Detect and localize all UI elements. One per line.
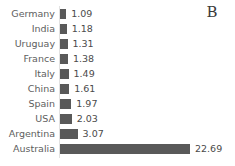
bar bbox=[60, 144, 190, 154]
value-label: 1.09 bbox=[71, 6, 92, 21]
bar bbox=[60, 9, 66, 19]
bar-track: 2.03 bbox=[60, 111, 235, 126]
bar-row: Argentina3.07 bbox=[0, 126, 235, 141]
bar bbox=[60, 54, 68, 64]
bar-track: 1.31 bbox=[60, 36, 235, 51]
value-label: 1.31 bbox=[73, 36, 94, 51]
value-label: 3.07 bbox=[83, 126, 104, 141]
bar-track: 1.38 bbox=[60, 51, 235, 66]
bar bbox=[60, 69, 69, 79]
bar-row: USA2.03 bbox=[0, 111, 235, 126]
category-label: Italy bbox=[0, 66, 55, 81]
bar-row: Spain1.97 bbox=[0, 96, 235, 111]
value-label: 22.69 bbox=[195, 141, 222, 156]
value-label: 1.97 bbox=[76, 96, 97, 111]
chart-plot-area: Germany1.09India1.18Uruguay1.31France1.3… bbox=[0, 6, 235, 162]
bar bbox=[60, 99, 71, 109]
bar-chart-panel: B Germany1.09India1.18Uruguay1.31France1… bbox=[0, 0, 235, 166]
bar-row: Germany1.09 bbox=[0, 6, 235, 21]
bar bbox=[60, 114, 72, 124]
bar-track: 1.09 bbox=[60, 6, 235, 21]
bar-track: 22.69 bbox=[60, 141, 235, 156]
value-label: 1.61 bbox=[74, 81, 95, 96]
category-label: France bbox=[0, 51, 55, 66]
bar bbox=[60, 24, 67, 34]
bar-row: India1.18 bbox=[0, 21, 235, 36]
category-label: India bbox=[0, 21, 55, 36]
bar-track: 1.61 bbox=[60, 81, 235, 96]
value-label: 1.38 bbox=[73, 51, 94, 66]
bar bbox=[60, 84, 69, 94]
bar-track: 1.18 bbox=[60, 21, 235, 36]
category-label: USA bbox=[0, 111, 55, 126]
category-label: Australia bbox=[0, 141, 55, 156]
bar bbox=[60, 39, 68, 49]
bar-track: 1.97 bbox=[60, 96, 235, 111]
bar-row: France1.38 bbox=[0, 51, 235, 66]
bar-row: Uruguay1.31 bbox=[0, 36, 235, 51]
category-label: China bbox=[0, 81, 55, 96]
bar-row: Australia22.69 bbox=[0, 141, 235, 156]
category-label: Uruguay bbox=[0, 36, 55, 51]
value-label: 2.03 bbox=[77, 111, 98, 126]
category-label: Spain bbox=[0, 96, 55, 111]
bar-row: China1.61 bbox=[0, 81, 235, 96]
bar bbox=[60, 129, 78, 139]
value-label: 1.49 bbox=[74, 66, 95, 81]
category-label: Argentina bbox=[0, 126, 55, 141]
category-label: Germany bbox=[0, 6, 55, 21]
bar-row: Italy1.49 bbox=[0, 66, 235, 81]
value-label: 1.18 bbox=[72, 21, 93, 36]
bar-track: 1.49 bbox=[60, 66, 235, 81]
bar-track: 3.07 bbox=[60, 126, 235, 141]
